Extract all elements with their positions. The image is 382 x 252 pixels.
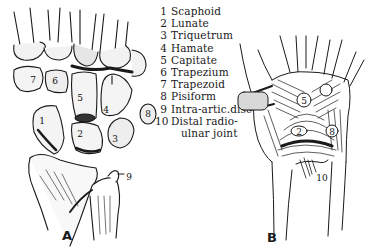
figure-b-drawing: 5 2 8 10	[228, 0, 382, 252]
label-a-3: 3	[112, 134, 118, 144]
label-a-2: 2	[77, 129, 83, 139]
label-a-9: 9	[126, 172, 132, 182]
figure-a-carpal-bones: 1 2 3 4 5 6 7 8 9	[0, 0, 160, 252]
figure-b-wrist-ligaments: 5 2 8 10	[228, 0, 382, 252]
label-a-4: 4	[103, 105, 109, 115]
label-a-6: 6	[52, 76, 58, 86]
figure-a-drawing: 1 2 3 4 5 6 7 8 9	[0, 0, 160, 252]
figure-a-caption: A	[62, 228, 72, 243]
label-a-5: 5	[77, 93, 83, 103]
label-a-8: 8	[145, 109, 151, 119]
label-a-1: 1	[39, 116, 45, 126]
label-a-7: 7	[30, 75, 36, 85]
figure-b-caption: B	[267, 230, 277, 245]
label-b-5: 5	[301, 96, 307, 106]
label-b-10: 10	[316, 173, 328, 183]
label-b-8: 8	[329, 127, 335, 137]
label-b-2: 2	[296, 127, 302, 137]
